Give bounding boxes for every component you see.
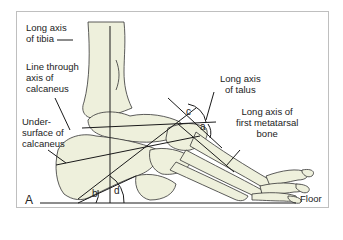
- label-calcaneus-axis: Line through axis of calcaneus: [26, 61, 79, 94]
- panel-label: A: [25, 193, 33, 207]
- angle-c-label: c: [186, 106, 191, 117]
- label-talus-axis: Long axis of talus: [220, 73, 261, 95]
- tibia-bone: [83, 22, 132, 118]
- label-calcaneus-undersurface: Under- surface of calcaneus: [22, 116, 65, 149]
- label-first-metatarsal-axis: Long axis of first metatarsal bone: [236, 106, 298, 139]
- angle-d-label: d: [114, 185, 120, 196]
- angle-a-label: a: [200, 121, 206, 132]
- label-tibia-axis: Long axis of tibia: [26, 22, 67, 44]
- angle-b-label: b: [92, 188, 98, 199]
- label-floor: Floor: [300, 193, 322, 204]
